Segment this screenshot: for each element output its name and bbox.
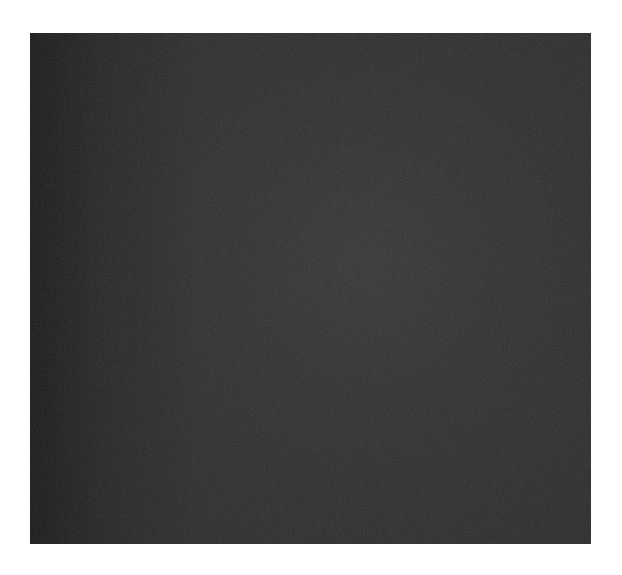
grain-texture	[30, 33, 591, 544]
faint-bottom-marks	[30, 546, 591, 566]
dark-textured-image	[30, 33, 591, 544]
